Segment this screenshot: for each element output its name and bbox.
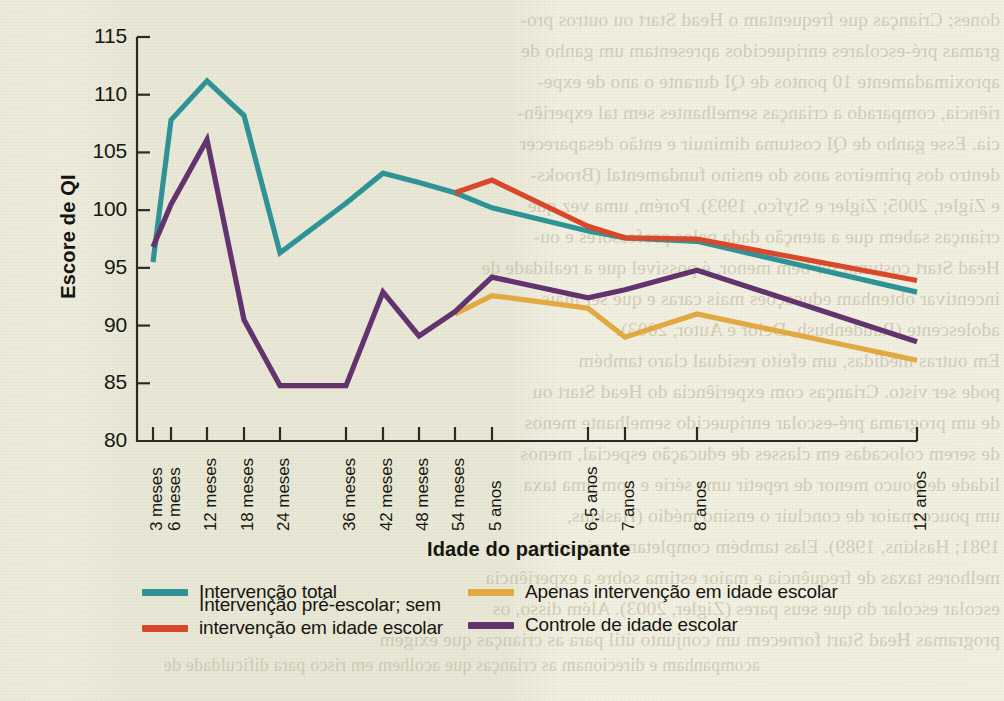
x-tick-label: 42 meses [377, 458, 397, 531]
series-line-3 [153, 140, 917, 386]
y-tick-label: 95 [81, 255, 127, 279]
x-tick-label: 54 meses [449, 458, 469, 531]
y-tick-label: 115 [81, 24, 127, 48]
y-axis-title: Escore de QI [57, 167, 80, 307]
legend-label: Intervenção pré-escolar; sem intervenção… [199, 593, 443, 639]
x-tick-label: 48 meses [413, 458, 433, 531]
y-tick-label: 85 [81, 370, 127, 394]
legend-swatch-icon [468, 589, 514, 596]
y-tick-label: 90 [81, 313, 127, 337]
legend-item-1[interactable]: Intervenção pré-escolar; sem intervenção… [142, 593, 443, 639]
series-line-1 [455, 180, 917, 280]
x-tick-label: 18 meses [238, 458, 258, 531]
x-tick-label: 12 anos [911, 471, 931, 531]
y-tick-label: 100 [81, 197, 127, 221]
legend-item-2[interactable]: Apenas intervenção em idade escolar [468, 580, 838, 603]
x-tick-label: 7 anos [619, 481, 639, 531]
x-tick-label: 5 anos [486, 481, 506, 531]
x-tick-label: 8 anos [691, 481, 711, 531]
y-tick-label: 105 [81, 139, 127, 163]
y-tick-label: 110 [81, 82, 127, 106]
x-axis-title: Idade do participante [427, 538, 630, 561]
y-tick-label: 80 [81, 428, 127, 452]
series-group [153, 81, 917, 386]
x-tick-label: 24 meses [274, 458, 294, 531]
axis-lines [137, 37, 917, 441]
x-tick-label: 6 meses [165, 467, 185, 531]
x-tick-label: 36 meses [340, 458, 360, 531]
x-tick-label: 6,5 anos [582, 467, 602, 531]
legend-swatch-icon [468, 622, 514, 629]
series-line-2 [455, 296, 917, 361]
legend-item-3[interactable]: Controle de idade escolar [468, 613, 738, 636]
x-tick-label: 3 meses [147, 467, 167, 531]
axes [137, 37, 917, 441]
legend-swatch-icon [142, 625, 188, 632]
x-tick-label: 12 meses [201, 458, 221, 531]
legend-label: Apenas intervenção em idade escolar [525, 580, 838, 603]
legend-label: Controle de idade escolar [525, 613, 738, 636]
